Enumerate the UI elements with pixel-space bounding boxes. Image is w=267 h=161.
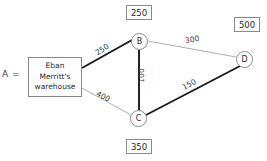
warehouse-source-box: Eban Merritt's warehouse [28, 57, 82, 97]
value-box-node-b: 250 [126, 5, 152, 20]
matrix-prefix-label: A = [2, 70, 20, 79]
edge-cost-b-c: 100 [137, 68, 146, 82]
node-c: C [130, 110, 147, 127]
warehouse-line-2: Merritt's [39, 72, 70, 83]
edge-c-d [146, 66, 240, 115]
warehouse-line-1: Eban [46, 61, 65, 72]
node-b: B [131, 33, 148, 50]
warehouse-line-3: warehouse [35, 82, 76, 93]
network-diagram: A = Eban Merritt's warehouse B C D 250 5… [0, 0, 267, 161]
value-box-node-d: 500 [234, 17, 260, 32]
value-box-node-c: 350 [126, 139, 152, 154]
node-d: D [236, 51, 253, 68]
